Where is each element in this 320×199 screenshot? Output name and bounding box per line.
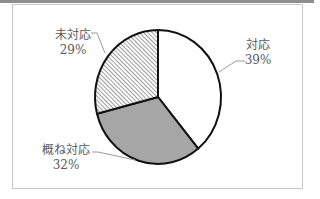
label-taiou-name: 対応	[240, 38, 276, 53]
leader-line-mitaiou	[91, 33, 105, 53]
label-ooune-taiou-value: 32%	[38, 158, 94, 173]
label-mitaiou: 未対応 29%	[53, 28, 93, 58]
label-taiou-value: 39%	[240, 53, 276, 68]
label-ooune-taiou-name: 概ね対応	[38, 143, 94, 158]
label-taiou: 対応 39%	[240, 38, 276, 68]
label-ooune-taiou: 概ね対応 32%	[38, 143, 94, 173]
label-mitaiou-name: 未対応	[53, 28, 93, 43]
table-strip-ticks	[52, 0, 261, 3]
label-mitaiou-value: 29%	[53, 43, 93, 58]
